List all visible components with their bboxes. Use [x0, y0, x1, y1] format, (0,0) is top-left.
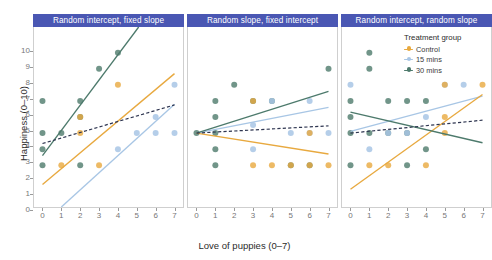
trend-line-overall [42, 105, 174, 144]
x-tick-label: 3 [97, 210, 101, 222]
data-point-mins30 [96, 66, 102, 72]
data-point-mins15 [347, 82, 353, 88]
y-tick-mark [30, 210, 33, 211]
data-point-mins15 [307, 98, 313, 104]
data-point-mins30 [404, 98, 410, 104]
panel-title: Random slope, fixed intercept [187, 14, 338, 27]
data-point-mins30 [423, 146, 429, 152]
panel-plot-area [33, 27, 184, 208]
data-point-mins30 [39, 98, 45, 104]
data-point-control [423, 162, 429, 168]
data-point-mins30 [39, 162, 45, 168]
data-point-mins15 [172, 130, 178, 136]
legend-title: Treatment group [404, 33, 461, 42]
x-tick-label: 4 [116, 210, 120, 222]
data-point-mins30 [366, 66, 372, 72]
data-point-mins30 [423, 98, 429, 104]
data-point-control [307, 130, 313, 136]
x-tick-label: 6 [153, 210, 157, 222]
x-axis-tick-labels: 01234567 [34, 210, 183, 222]
data-point-mins15 [269, 98, 275, 104]
x-tick-label: 4 [270, 210, 274, 222]
data-point-mins30 [385, 98, 391, 104]
legend-swatch-icon [404, 55, 413, 64]
data-point-control [366, 162, 372, 168]
x-tick-label: 5 [289, 210, 293, 222]
x-tick-label: 6 [307, 210, 311, 222]
x-axis-tick-labels: 01234567 [342, 210, 491, 222]
panel-title: Random intercept, fixed slope [33, 14, 184, 27]
x-tick-label: 3 [405, 210, 409, 222]
legend-entries: Control15 mins30 mins [404, 45, 461, 75]
x-tick-label: 1 [367, 210, 371, 222]
data-point-mins15 [366, 146, 372, 152]
data-point-mins15 [172, 82, 178, 88]
x-tick-label: 1 [59, 210, 63, 222]
x-axis-title: Love of puppies (0–7) [0, 240, 489, 251]
data-point-control [115, 82, 121, 88]
chart-panel-1: Random intercept, fixed slope [33, 14, 184, 208]
data-point-control [250, 162, 256, 168]
x-tick-label: 7 [480, 210, 484, 222]
data-point-mins15 [115, 146, 121, 152]
data-point-mins30 [347, 114, 353, 120]
data-point-mins30 [404, 162, 410, 168]
chart-panel-2: Random slope, fixed intercept [187, 14, 338, 208]
x-tick-label: 1 [213, 210, 217, 222]
x-tick-label: 3 [251, 210, 255, 222]
x-axis-tick-labels: 01234567 [188, 210, 337, 222]
legend: Treatment group Control15 mins30 mins [404, 33, 461, 76]
data-point-mins15 [250, 146, 256, 152]
data-point-mins30 [326, 66, 332, 72]
data-point-mins15 [326, 130, 332, 136]
data-point-mins30 [231, 82, 237, 88]
trend-line-mins30 [350, 112, 482, 143]
legend-item-mins15[interactable]: 15 mins [404, 55, 461, 64]
plot-svg [188, 27, 337, 207]
data-point-mins30 [347, 98, 353, 104]
data-point-control [307, 162, 313, 168]
data-point-mins15 [423, 114, 429, 120]
data-point-control [442, 114, 448, 120]
panel-plot-area [187, 27, 338, 208]
trend-line-mins30 [42, 27, 138, 156]
data-point-control [269, 162, 275, 168]
data-point-mins30 [347, 162, 353, 168]
data-point-mins30 [366, 50, 372, 56]
data-point-mins15 [404, 130, 410, 136]
data-point-control [480, 82, 486, 88]
data-point-control [326, 162, 332, 168]
legend-swatch-icon [404, 45, 413, 54]
data-point-control [77, 114, 83, 120]
x-tick-label: 5 [135, 210, 139, 222]
x-tick-label: 5 [443, 210, 447, 222]
data-point-mins30 [212, 114, 218, 120]
data-point-control [250, 98, 256, 104]
data-point-control [288, 162, 294, 168]
data-point-mins15 [385, 130, 391, 136]
panel-title: Random intercept, random slope [341, 14, 492, 27]
x-tick-label: 2 [386, 210, 390, 222]
legend-swatch-icon [404, 66, 413, 75]
data-point-mins15 [461, 82, 467, 88]
data-point-mins30 [77, 162, 83, 168]
legend-item-label: 15 mins [416, 55, 442, 64]
data-point-mins15 [134, 130, 140, 136]
y-axis-tick-labels: 012345678910 [14, 28, 30, 208]
plot-svg [34, 27, 183, 207]
x-tick-label: 7 [326, 210, 330, 222]
data-point-mins30 [39, 146, 45, 152]
x-tick-label: 0 [194, 210, 198, 222]
data-point-mins15 [153, 130, 159, 136]
x-tick-label: 2 [232, 210, 236, 222]
data-point-control [442, 82, 448, 88]
legend-item-label: Control [416, 45, 440, 54]
x-tick-label: 0 [348, 210, 352, 222]
data-point-mins30 [212, 98, 218, 104]
trend-line-mins30 [196, 91, 328, 133]
legend-item-mins30[interactable]: 30 mins [404, 66, 461, 75]
legend-item-control[interactable]: Control [404, 45, 461, 54]
data-point-mins30 [39, 130, 45, 136]
x-tick-label: 2 [78, 210, 82, 222]
